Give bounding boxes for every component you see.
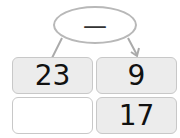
cell-row2-right: 17 bbox=[96, 97, 177, 134]
minus-operator: — bbox=[55, 12, 135, 40]
cell-row1-right: 9 bbox=[96, 57, 177, 94]
cell-row1-left: 23 bbox=[12, 57, 93, 94]
cell-row2-left-answer[interactable] bbox=[12, 97, 93, 134]
operation-oval: — bbox=[53, 6, 137, 44]
